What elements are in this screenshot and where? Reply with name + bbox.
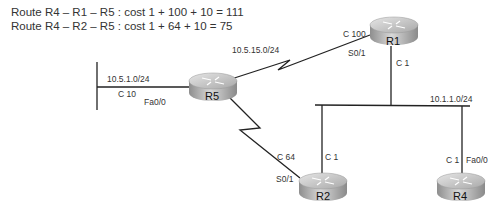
r1-lan-cost-label: C 1 [396,58,409,68]
router-r1-label: R1 [386,35,400,47]
serial-r5-r2 [222,90,300,178]
network-links [0,0,493,207]
router-r2-label: R2 [316,190,330,202]
r2-serial-iface-label: S0/1 [276,174,294,184]
r2-lan-cost-label: C 1 [325,152,338,162]
r4-lan-cost-label: C 1 [446,155,459,165]
r1-serial-cost-label: C 100 [343,29,366,39]
r1-serial-iface-label: S0/1 [348,48,366,58]
lan-segment-10-1-1 [315,105,470,106]
r5-lan-iface-label: Fa0/0 [144,97,166,107]
router-r5-label: R5 [205,90,219,102]
subnet-10-1-1-label: 10.1.1.0/24 [430,94,473,104]
subnet-10-5-1-label: 10.5.1.0/24 [107,74,150,84]
router-r4-label: R4 [453,190,467,202]
serial-r5-r1 [222,35,370,82]
r2-serial-cost-label: C 64 [277,152,295,162]
r5-lan-cost-label: C 10 [118,89,136,99]
r4-lan-iface-label: Fa0/0 [466,155,488,165]
subnet-10-5-15-label: 10.5.15.0/24 [232,45,279,55]
